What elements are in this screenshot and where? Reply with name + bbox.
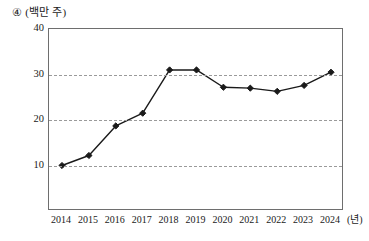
x-axis-unit-label: (년) xyxy=(347,214,363,226)
x-tick-label: 2014 xyxy=(51,214,71,226)
gridline xyxy=(49,166,342,167)
data-point-marker xyxy=(301,82,307,88)
x-tick-label: 2022 xyxy=(266,214,286,226)
gridline xyxy=(49,120,342,121)
data-point-marker xyxy=(247,85,253,91)
y-axis: 10203040 xyxy=(0,0,48,241)
x-tick-label: 2021 xyxy=(239,214,259,226)
x-tick-label: 2016 xyxy=(105,214,125,226)
y-tick-label: 20 xyxy=(34,114,45,125)
plot-area xyxy=(48,28,343,210)
y-tick-label: 40 xyxy=(34,23,45,34)
gridline xyxy=(49,75,342,76)
x-tick-label: 2023 xyxy=(293,214,313,226)
x-tick-label: 2024 xyxy=(320,214,340,226)
chart-figure: ④(백만 주) 10203040 (년) 2014201520162017201… xyxy=(0,0,369,241)
x-tick-label: 2017 xyxy=(132,214,152,226)
y-tick-label: 10 xyxy=(34,160,45,171)
series-line xyxy=(62,70,331,166)
x-tick-label: 2015 xyxy=(78,214,98,226)
x-tick-label: 2020 xyxy=(212,214,232,226)
data-point-marker xyxy=(274,88,280,94)
x-axis: (년) 201420152016201720182019202020212022… xyxy=(0,214,369,234)
x-tick-label: 2019 xyxy=(186,214,206,226)
y-tick-label: 30 xyxy=(34,69,45,80)
x-tick-label: 2018 xyxy=(159,214,179,226)
